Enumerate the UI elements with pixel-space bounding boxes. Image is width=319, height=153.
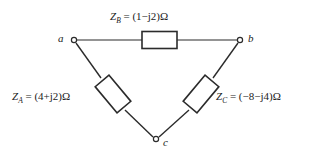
impedance-subscript-zb: B <box>116 16 121 25</box>
impedance-label-zc: ZC = (−8−j4)Ω <box>216 91 281 102</box>
impedance-value-za: (4+j2)Ω <box>34 90 70 102</box>
impedance-subscript-zc: C <box>222 96 227 105</box>
impedance-box-zc <box>183 75 219 113</box>
circuit-schematic-svg <box>0 0 319 153</box>
node-label-c: c <box>163 137 168 148</box>
impedance-value-zc: (−8−j4)Ω <box>239 90 281 102</box>
impedance-subscript-za: A <box>18 96 23 105</box>
terminal-node-b <box>237 37 242 42</box>
wire-za-to-c <box>125 110 153 137</box>
node-label-b: b <box>248 33 254 44</box>
node-label-a: a <box>58 33 64 44</box>
impedance-equals-za: = <box>25 90 31 102</box>
wire-a-to-za <box>76 43 101 78</box>
wire-zc-to-c <box>159 110 189 137</box>
impedance-box-za <box>95 75 131 113</box>
wire-b-to-zc <box>213 43 238 78</box>
impedance-label-zb: ZB = (1−j2)Ω <box>110 11 168 22</box>
terminal-node-a <box>71 37 76 42</box>
impedance-equals-zb: = <box>123 10 129 22</box>
circuit-diagram-figure: ZB = (1−j2)Ω ZA = (4+j2)Ω ZC = (−8−j4)Ω … <box>0 0 319 153</box>
terminal-node-c <box>153 136 158 141</box>
impedance-value-zb: (1−j2)Ω <box>132 10 168 22</box>
impedance-equals-zc: = <box>230 90 236 102</box>
impedance-box-zb <box>142 32 177 49</box>
impedance-label-za: ZA = (4+j2)Ω <box>12 91 70 102</box>
